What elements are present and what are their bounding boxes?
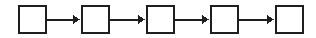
node-square	[82, 6, 109, 33]
node-outline	[211, 6, 238, 33]
diagram-canvas	[0, 0, 316, 38]
node-outline	[147, 6, 174, 33]
node-square	[147, 6, 174, 33]
node-chain-diagram	[0, 0, 316, 38]
node-outline	[82, 6, 109, 33]
node-square	[211, 6, 238, 33]
node-square	[19, 6, 46, 33]
node-outline	[19, 6, 46, 33]
node-outline	[276, 6, 303, 33]
node-square	[276, 6, 303, 33]
